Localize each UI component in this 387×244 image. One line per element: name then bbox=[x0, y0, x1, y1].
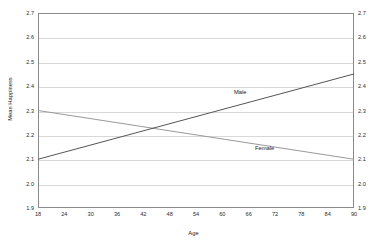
ytick-right-4: 2.3 bbox=[358, 109, 376, 115]
ytick-right-6: 2.1 bbox=[358, 157, 376, 163]
series-line-male bbox=[38, 74, 354, 159]
ytick-left-3: 2.4 bbox=[16, 84, 34, 90]
ytick-right-0: 2.7 bbox=[358, 11, 376, 17]
ytick-right-5: 2.2 bbox=[358, 133, 376, 139]
ytick-left-2: 2.5 bbox=[16, 60, 34, 66]
series-annotation-male: Male bbox=[234, 89, 247, 95]
ytick-left-4: 2.3 bbox=[16, 109, 34, 115]
ytick-left-0: 2.7 bbox=[16, 11, 34, 17]
xtick-5: 48 bbox=[158, 212, 182, 218]
xtick-7: 60 bbox=[210, 212, 234, 218]
xtick-8: 66 bbox=[237, 212, 261, 218]
series-lines bbox=[38, 13, 354, 208]
xtick-11: 84 bbox=[316, 212, 340, 218]
xtick-6: 54 bbox=[184, 212, 208, 218]
xtick-1: 24 bbox=[52, 212, 76, 218]
ytick-right-1: 2.6 bbox=[358, 35, 376, 41]
xtick-3: 36 bbox=[105, 212, 129, 218]
ytick-right-3: 2.4 bbox=[358, 84, 376, 90]
xtick-2: 30 bbox=[79, 212, 103, 218]
xtick-4: 42 bbox=[131, 212, 155, 218]
y-axis-label: Mean Happiness bbox=[7, 59, 13, 139]
xtick-0: 18 bbox=[26, 212, 50, 218]
ytick-left-7: 2.0 bbox=[16, 182, 34, 188]
ytick-left-8: 1.9 bbox=[16, 206, 34, 212]
ytick-left-1: 2.6 bbox=[16, 35, 34, 41]
xtick-10: 78 bbox=[289, 212, 313, 218]
ytick-left-6: 2.1 bbox=[16, 157, 34, 163]
ytick-right-2: 2.5 bbox=[358, 60, 376, 66]
x-axis-label: Age bbox=[0, 230, 387, 236]
ytick-right-8: 1.9 bbox=[358, 206, 376, 212]
series-line-female bbox=[38, 111, 354, 160]
chart-container: Male Female 2.7 2.6 2.5 2.4 2.3 2.2 2.1 … bbox=[0, 0, 387, 244]
ytick-right-7: 2.0 bbox=[358, 182, 376, 188]
ytick-left-5: 2.2 bbox=[16, 133, 34, 139]
xtick-9: 72 bbox=[263, 212, 287, 218]
xtick-12: 90 bbox=[342, 212, 366, 218]
series-annotation-female: Female bbox=[255, 145, 274, 151]
